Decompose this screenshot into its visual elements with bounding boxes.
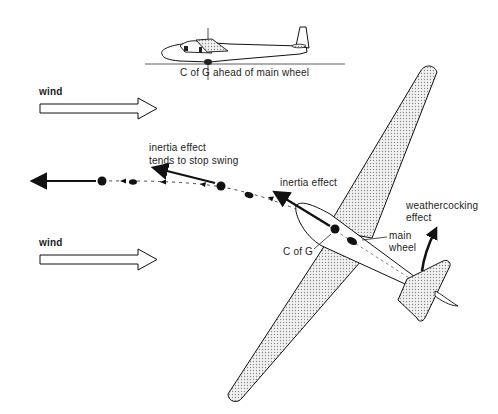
- cg-dot: [331, 225, 340, 234]
- label-wind-top: wind: [39, 86, 63, 98]
- path-arrowhead: [120, 179, 126, 184]
- label-weathercocking-2: effect: [406, 212, 431, 224]
- path-arrowhead: [160, 180, 166, 185]
- pilot-figure: [184, 46, 188, 51]
- top-view-glider: [228, 66, 458, 401]
- wheel-position-2: [244, 191, 255, 200]
- label-inertia-stop-1: inertia effect: [149, 142, 206, 154]
- path-arrowhead: [200, 182, 206, 187]
- control-stick: [199, 47, 202, 53]
- label-inertia-effect: inertia effect: [280, 177, 337, 189]
- rudder-top: [435, 291, 458, 306]
- cg-position-1: [98, 177, 107, 186]
- label-cg-ahead: C of G ahead of main wheel: [180, 67, 309, 79]
- cg-position-2: [217, 182, 226, 191]
- wind-arrow-top: [40, 98, 157, 119]
- label-weathercocking-1: weathercocking: [406, 200, 478, 212]
- label-wind-bottom: wind: [39, 237, 63, 249]
- wheel-position-1: [129, 179, 137, 185]
- main-wheel-side: [204, 59, 212, 65]
- left-wing: [228, 245, 368, 401]
- label-c-of-g: C of G: [283, 246, 313, 258]
- tailplane-top: [398, 260, 450, 321]
- main-wheel-leader-line: [362, 237, 387, 240]
- weathercocking-arrow: [422, 231, 435, 271]
- wind-arrow-bottom: [40, 249, 157, 270]
- label-main-wheel-1: main: [389, 230, 411, 242]
- tailplane-side: [292, 44, 306, 48]
- label-inertia-stop-2: tends to stop swing: [149, 155, 238, 167]
- label-main-wheel-2: wheel: [389, 242, 416, 254]
